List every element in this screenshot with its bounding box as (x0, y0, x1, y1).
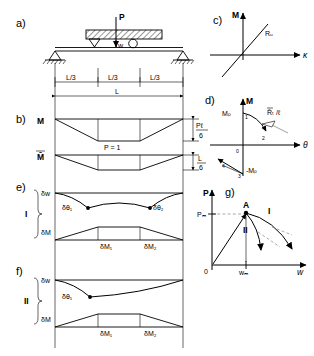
dimension-thirds: L/3 L/3 L/3 (55, 74, 183, 87)
block-roller-support (129, 39, 138, 48)
panel-d-slope-label: R̄ₜ /ℓ (267, 109, 281, 116)
panel-g-branch-two (246, 213, 261, 250)
moment-diagram-m: M (37, 116, 183, 141)
panel-d-mp-negative: -Mₚ (246, 167, 257, 174)
panel-c-x-label: κ (303, 50, 308, 60)
dimension-span: L (55, 88, 183, 96)
moment-diagram-mbar: M̄ (36, 151, 183, 170)
construction-lines (55, 63, 183, 348)
value-top-denominator: 6 (199, 132, 203, 139)
figure-canvas: a) P w (0, 0, 314, 356)
span-label: L (115, 88, 119, 95)
support-left (43, 51, 66, 64)
panel-e-disp-label: δw (41, 190, 51, 197)
block-pin-support (89, 39, 100, 47)
panel-g-branch-one-label: I (268, 206, 270, 216)
unit-load-label: P = 1 (104, 144, 121, 151)
panel-f-label: f) (16, 265, 23, 277)
value-bottom-numerator: L (198, 155, 202, 162)
panel-g-y-label: P (203, 188, 209, 198)
panel-f-segment-right (90, 280, 183, 297)
value-bracket-top: Pℓ 6 (183, 119, 208, 141)
panel-g-loading-branch (213, 214, 246, 264)
panel-f: f) II δw δM δθ₁ δM₁ δM₂ (16, 265, 183, 337)
panel-c-curve-label: Rᵤ (265, 30, 273, 37)
panel-g-branch-one (246, 213, 292, 249)
panel-c: c) M κ Rᵤ (210, 10, 308, 77)
panel-f-moment-1: δM₁ (100, 330, 113, 337)
panel-d-label: d) (205, 94, 215, 106)
panel-e-moment-label: δM (41, 229, 51, 236)
panel-e-rotation-2: δθ₂ (153, 204, 164, 211)
moment-label-m: M (37, 116, 44, 126)
panel-f-hinge-1 (88, 295, 92, 299)
panel-d-x-label: θ (303, 140, 308, 150)
panel-f-moment-label: δM (41, 316, 51, 323)
panel-f-mechanism-label: II (24, 296, 29, 306)
panel-g-peak-load-label: Pₘ (197, 211, 206, 218)
panel-d-point-4: 4 (222, 163, 225, 169)
panel-g-peak-disp-label: wₘ (238, 269, 248, 276)
panel-d-slope-guide (272, 125, 288, 133)
panel-c-y-label: M (232, 10, 239, 20)
panel-b: b) M Pℓ 6 P = 1 M̄ (16, 113, 208, 171)
panel-e-label: e) (16, 181, 26, 193)
panel-f-disp-label: δw (41, 277, 51, 284)
panel-g-x-label: w (297, 267, 304, 277)
panel-d-point-1: 1 (245, 114, 248, 120)
value-bracket-bottom: L 6 (183, 155, 206, 171)
load-label-p: P (119, 12, 125, 22)
panel-d: d) M θ 0 Mₚ -Mₚ 1 2 R̄ₜ /ℓ 3 4 (205, 94, 308, 179)
panel-g-peak-point-label: A (243, 200, 249, 210)
load-block (86, 30, 162, 39)
panel-e-rotation-1: δθ₁ (62, 204, 73, 211)
panel-f-rotation-1: δθ₁ (62, 293, 73, 300)
panel-e-moment-1: δM₁ (100, 243, 113, 250)
panel-g-branch-two-label: II (243, 225, 248, 235)
panel-a-label: a) (16, 17, 26, 29)
panel-a: a) P w (16, 12, 194, 96)
dimension-label-3: L/3 (150, 74, 160, 81)
structural-mechanics-figure: a) P w (0, 0, 314, 356)
panel-e: e) I δw δM δθ₁ δθ₂ δM₁ δM₂ (16, 181, 183, 250)
panel-e-moment-shape (55, 227, 183, 240)
value-top-numerator: Pℓ (196, 122, 204, 129)
value-bottom-denominator: 6 (199, 164, 203, 171)
panel-d-point-2: 2 (262, 135, 265, 141)
panel-e-segment-mid (88, 203, 150, 208)
support-right (171, 51, 194, 64)
panel-f-moment-shape (55, 314, 183, 327)
panel-e-moment-2: δM₂ (144, 243, 157, 250)
panel-g-origin-label: 0 (204, 268, 208, 275)
dimension-label-2: L/3 (108, 74, 118, 81)
panel-g: g) P w 0 Pₘ wₘ A I II (197, 186, 306, 277)
unit-moment-label-mbar: M̄ (37, 152, 44, 162)
panel-d-mp-positive: Mₚ (222, 110, 231, 117)
panel-d-y-label: M (246, 96, 253, 106)
panel-e-hinge-2 (148, 206, 152, 210)
panel-f-segment-left (55, 280, 90, 297)
panel-c-label: c) (213, 14, 222, 26)
panel-g-guide-two (258, 232, 280, 247)
panel-d-origin-label: 0 (236, 148, 239, 154)
panel-d-point-3: 3 (238, 173, 241, 179)
panel-b-label: b) (16, 113, 26, 125)
panel-c-stiffness-line (222, 24, 268, 77)
panel-e-mechanism-label: I (25, 209, 27, 219)
dimension-label-1: L/3 (66, 74, 76, 81)
panel-f-moment-2: δM₂ (144, 330, 157, 337)
panel-d-slope-marker (262, 121, 275, 127)
panel-e-hinge-1 (86, 206, 90, 210)
panel-g-label: g) (225, 186, 235, 198)
